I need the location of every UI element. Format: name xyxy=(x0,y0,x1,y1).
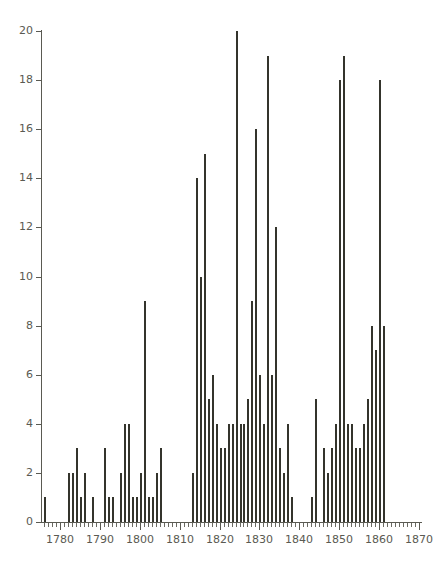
x-tick-minor xyxy=(132,523,133,527)
bar xyxy=(347,424,349,522)
x-tick-minor xyxy=(335,523,336,527)
bar xyxy=(363,424,365,522)
x-tick-minor xyxy=(192,523,193,527)
x-tick-minor xyxy=(52,523,53,527)
x-tick-minor xyxy=(172,523,173,527)
x-tick-minor xyxy=(156,523,157,527)
bar xyxy=(327,473,329,522)
x-tick-minor xyxy=(108,523,109,527)
bar xyxy=(331,448,333,522)
bar xyxy=(335,424,337,522)
bar xyxy=(208,399,210,522)
x-tick-minor xyxy=(383,523,384,527)
bar xyxy=(355,448,357,522)
x-tick-label: 1820 xyxy=(200,534,240,545)
y-tick-label: 0 xyxy=(0,516,33,527)
bar xyxy=(104,448,106,522)
y-tick-label: 18 xyxy=(0,74,33,85)
bar xyxy=(291,497,293,522)
bar xyxy=(251,301,253,522)
bar xyxy=(255,129,257,522)
x-tick-minor xyxy=(124,523,125,527)
x-tick-minor xyxy=(271,523,272,527)
x-tick-minor xyxy=(247,523,248,527)
x-tick-major xyxy=(60,523,61,530)
bar xyxy=(200,277,202,523)
x-tick-label: 1840 xyxy=(279,534,319,545)
bar xyxy=(156,473,158,522)
bar xyxy=(212,375,214,522)
x-tick-minor xyxy=(291,523,292,527)
x-tick-minor xyxy=(355,523,356,527)
x-tick-minor xyxy=(160,523,161,527)
x-tick-minor xyxy=(295,523,296,527)
bar xyxy=(160,448,162,522)
bar xyxy=(140,473,142,522)
x-tick-minor xyxy=(88,523,89,527)
y-tick xyxy=(36,522,41,523)
y-tick-label: 10 xyxy=(0,271,33,282)
x-tick-major xyxy=(379,523,380,530)
bar xyxy=(383,326,385,522)
bar xyxy=(283,473,285,522)
bar xyxy=(152,497,154,522)
x-tick-major xyxy=(419,523,420,530)
bar xyxy=(236,31,238,522)
x-tick-minor xyxy=(387,523,388,527)
x-tick-minor xyxy=(104,523,105,527)
x-tick-minor xyxy=(267,523,268,527)
bar xyxy=(240,424,242,522)
x-tick-label: 1780 xyxy=(40,534,80,545)
bar xyxy=(220,448,222,522)
bar xyxy=(124,424,126,522)
y-tick-label: 6 xyxy=(0,369,33,380)
x-tick-minor xyxy=(279,523,280,527)
bar xyxy=(339,80,341,522)
y-tick-label: 20 xyxy=(0,25,33,36)
bar xyxy=(315,399,317,522)
x-tick-minor xyxy=(148,523,149,527)
x-tick-minor xyxy=(307,523,308,527)
x-tick-minor xyxy=(331,523,332,527)
bar xyxy=(311,497,313,522)
x-tick-minor xyxy=(319,523,320,527)
x-tick-major xyxy=(100,523,101,530)
y-tick-label: 14 xyxy=(0,172,33,183)
bar xyxy=(375,350,377,522)
x-tick-minor xyxy=(343,523,344,527)
x-tick-label: 1810 xyxy=(160,534,200,545)
x-tick-major xyxy=(299,523,300,530)
x-tick-minor xyxy=(363,523,364,527)
x-tick-minor xyxy=(391,523,392,527)
x-tick-minor xyxy=(144,523,145,527)
bar xyxy=(136,497,138,522)
bar xyxy=(243,424,245,522)
x-tick-minor xyxy=(347,523,348,527)
x-tick-minor xyxy=(359,523,360,527)
x-tick-minor xyxy=(395,523,396,527)
x-tick-minor xyxy=(263,523,264,527)
x-tick-minor xyxy=(228,523,229,527)
bar xyxy=(371,326,373,522)
x-tick-minor xyxy=(72,523,73,527)
x-tick-minor xyxy=(224,523,225,527)
bar xyxy=(232,424,234,522)
x-tick-minor xyxy=(371,523,372,527)
x-tick-minor xyxy=(407,523,408,527)
bar xyxy=(132,497,134,522)
x-tick-minor xyxy=(232,523,233,527)
x-tick-minor xyxy=(216,523,217,527)
bar xyxy=(128,424,130,522)
x-tick-minor xyxy=(92,523,93,527)
x-tick-label: 1870 xyxy=(399,534,439,545)
x-tick-major xyxy=(180,523,181,530)
x-tick-minor xyxy=(168,523,169,527)
bar xyxy=(148,497,150,522)
x-tick-minor xyxy=(56,523,57,527)
x-tick-minor xyxy=(240,523,241,527)
bar xyxy=(279,448,281,522)
bar xyxy=(120,473,122,522)
bar xyxy=(359,448,361,522)
bar xyxy=(275,227,277,522)
bar xyxy=(84,473,86,522)
